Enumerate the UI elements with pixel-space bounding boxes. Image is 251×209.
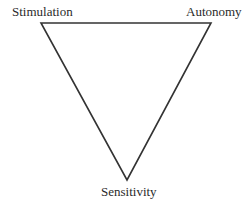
vertex-label-stimulation: Stimulation [12,4,73,19]
triangle-diagram: Stimulation Autonomy Sensitivity [0,0,251,209]
vertex-label-sensitivity: Sensitivity [101,184,157,199]
triangle-shape [0,0,251,209]
triangle-outline [41,23,211,180]
vertex-label-autonomy: Autonomy [186,4,242,19]
